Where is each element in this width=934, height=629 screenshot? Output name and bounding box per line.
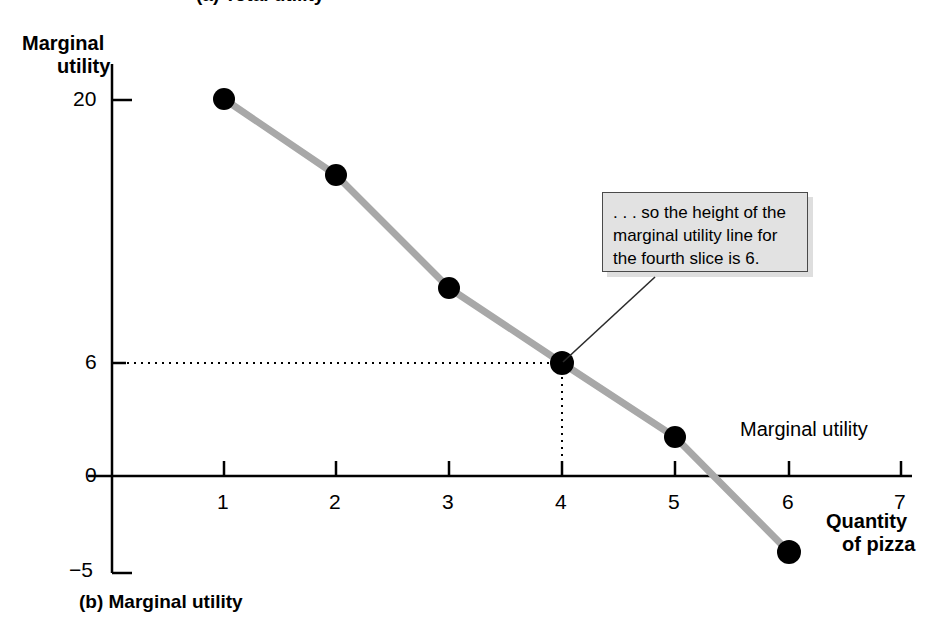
- data-point: [777, 540, 801, 564]
- data-point: [438, 277, 460, 299]
- y-tick-label-minus-5: −5: [69, 558, 93, 583]
- chart-canvas: [0, 0, 934, 629]
- x-tick-label-1: 1: [217, 490, 229, 515]
- top-panel-caption: (a) Total utility: [196, 0, 324, 6]
- series-label-marginal-utility: Marginal utility: [740, 418, 868, 442]
- callout-leader-line: [563, 277, 655, 362]
- y-axis-title-line2: utility: [57, 55, 110, 79]
- data-point: [213, 88, 235, 110]
- y-tick-label-20: 20: [73, 87, 96, 112]
- x-tick-label-5: 5: [668, 490, 680, 515]
- x-tick-label-6: 6: [782, 490, 794, 515]
- marginal-utility-line: [224, 99, 789, 552]
- y-tick-label-6: 6: [85, 350, 97, 375]
- panel-caption: (b) Marginal utility: [79, 591, 243, 613]
- x-axis-title-line1: Quantity: [826, 510, 907, 534]
- x-tick-label-3: 3: [442, 490, 454, 515]
- y-axis-ticks: [112, 100, 132, 573]
- marginal-utility-figure: (a) Total utility Marginal utility 20 6 …: [0, 0, 934, 629]
- callout-text: . . . so the height of the marginal util…: [613, 202, 801, 271]
- x-tick-label-2: 2: [329, 490, 341, 515]
- y-axis-title-line1: Marginal: [22, 32, 104, 56]
- x-axis-title-line2: of pizza: [842, 533, 915, 557]
- x-tick-label-4: 4: [555, 490, 567, 515]
- y-tick-label-0: 0: [85, 463, 97, 488]
- data-point: [664, 426, 686, 448]
- data-point: [325, 164, 347, 186]
- callout-box: . . . so the height of the marginal util…: [602, 192, 808, 272]
